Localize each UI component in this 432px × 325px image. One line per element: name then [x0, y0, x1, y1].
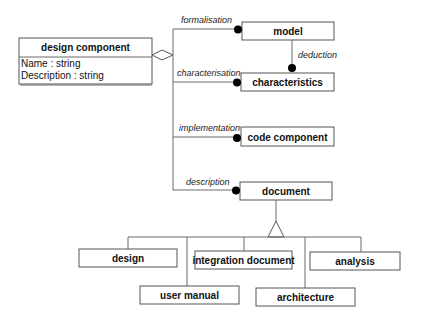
class-analysis[interactable]: analysis [310, 252, 400, 270]
class-code-component[interactable]: code component [241, 127, 334, 146]
class-name: model [273, 26, 303, 37]
class-name: integration document [192, 255, 295, 266]
association-end-dot-icon [233, 79, 241, 87]
association-end-dot-icon [234, 26, 242, 34]
role-label-implementation: implementation [179, 123, 240, 133]
class-name: analysis [335, 256, 375, 267]
class-architecture[interactable]: architecture [256, 288, 355, 306]
class-characteristics[interactable]: characteristics [241, 73, 334, 91]
class-name: code component [247, 132, 328, 143]
class-name: design [112, 253, 144, 264]
role-label-characterisation: characterisation [177, 68, 241, 78]
class-name: document [262, 186, 310, 197]
association-end-dot-icon [232, 187, 240, 195]
class-name: user manual [160, 290, 219, 301]
class-user-manual[interactable]: user manual [140, 286, 239, 304]
uml-diagram: design component Name : string Descripti… [0, 0, 432, 325]
class-attribute-name: Name : string [21, 58, 80, 69]
class-integration-document[interactable]: integration document [192, 251, 295, 269]
class-name: characteristics [252, 77, 323, 88]
class-design[interactable]: design [79, 249, 177, 267]
class-name: architecture [277, 292, 335, 303]
aggregation-diamond-icon [152, 50, 173, 60]
class-document[interactable]: document [240, 182, 332, 200]
association-end-dot-icon [233, 134, 241, 142]
role-label-description: description [186, 177, 230, 187]
association-end-dot-icon [288, 64, 296, 72]
role-label-deduction: deduction [298, 50, 337, 60]
class-design-component[interactable]: design component Name : string Descripti… [19, 38, 152, 85]
class-name: design component [41, 42, 131, 53]
role-label-formalisation: formalisation [181, 15, 232, 25]
generalization-triangle-icon [268, 221, 284, 237]
class-model[interactable]: model [242, 22, 334, 40]
class-attribute-description: Description : string [21, 70, 104, 81]
